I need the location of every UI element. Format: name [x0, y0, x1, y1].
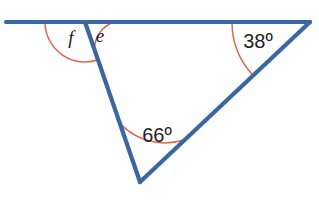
hypotenuse-line — [140, 22, 310, 182]
angle-label-f: f — [68, 27, 76, 48]
angle-label-38: 38º — [243, 30, 273, 52]
diagram-canvas: f e 38º 66º — [0, 0, 319, 206]
angle-label-e: e — [96, 25, 104, 46]
transversal-line — [85, 22, 140, 182]
geometry-figure: f e 38º 66º — [0, 0, 319, 206]
angle-label-66: 66º — [142, 124, 172, 146]
